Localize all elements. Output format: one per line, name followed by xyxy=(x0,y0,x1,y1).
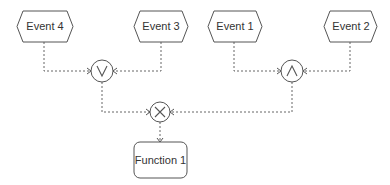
edge-or-xor xyxy=(102,82,150,112)
function-1-label: Function 1 xyxy=(135,154,186,166)
edge-event2-and xyxy=(303,42,350,71)
edge-event3-or xyxy=(113,42,161,71)
edge-event4-or xyxy=(44,42,91,71)
event-3-label: Event 3 xyxy=(142,20,179,32)
connection-lines xyxy=(44,42,350,142)
edge-event1-and xyxy=(234,42,281,71)
xor-connector[interactable] xyxy=(150,102,170,122)
event-4[interactable]: Event 4 xyxy=(17,11,73,42)
event-1[interactable]: Event 1 xyxy=(208,11,262,42)
epc-diagram: Event 4 Event 3 Event 1 Event 2 Function… xyxy=(0,0,390,185)
function-1[interactable]: Function 1 xyxy=(134,142,187,178)
connector-circle xyxy=(91,60,113,82)
event-2-label: Event 2 xyxy=(332,20,369,32)
edge-and-xor xyxy=(170,82,292,112)
event-1-label: Event 1 xyxy=(216,20,253,32)
arrowheads xyxy=(87,68,307,142)
event-2[interactable]: Event 2 xyxy=(324,11,377,42)
or-connector[interactable] xyxy=(91,60,113,82)
event-3[interactable]: Event 3 xyxy=(134,11,188,42)
connector-circle xyxy=(281,60,303,82)
event-4-label: Event 4 xyxy=(26,20,63,32)
and-connector[interactable] xyxy=(281,60,303,82)
